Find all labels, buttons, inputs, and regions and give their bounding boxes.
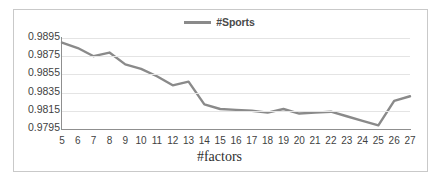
- gridline: [62, 111, 410, 112]
- x-tick-label: 11: [152, 134, 162, 147]
- y-tick-label: 0.9895: [14, 31, 60, 42]
- y-tick-label: 0.9855: [14, 67, 60, 78]
- x-axis-tick-labels: 5678910111213141516171819202122232425262…: [62, 134, 410, 148]
- gridline: [62, 93, 410, 94]
- x-tick-label: 6: [75, 134, 81, 147]
- x-tick-label: 12: [167, 134, 178, 147]
- x-tick-label: 18: [262, 134, 273, 147]
- gridline: [62, 74, 410, 75]
- legend-line-swatch-sports: [184, 21, 211, 24]
- x-tick-label: 8: [107, 134, 113, 147]
- x-tick-label: 17: [246, 134, 257, 147]
- x-tick-label: 10: [136, 134, 147, 147]
- y-tick-label: 0.9815: [14, 103, 60, 114]
- x-tick-label: 20: [294, 134, 305, 147]
- x-tick-label: 16: [230, 134, 241, 147]
- x-tick-label: 27: [404, 134, 415, 147]
- gridline: [62, 38, 410, 39]
- x-tick-label: 15: [215, 134, 226, 147]
- x-tick-label: 5: [59, 134, 65, 147]
- x-tick-label: 25: [373, 134, 384, 147]
- series-sports-line: [62, 38, 410, 129]
- x-tick-label: 14: [199, 134, 210, 147]
- x-tick-label: 7: [91, 134, 97, 147]
- x-tick-label: 9: [122, 134, 128, 147]
- x-tick-label: 23: [341, 134, 352, 147]
- y-axis-tick-labels: 0.97950.98150.98350.98550.98750.9895: [14, 36, 60, 136]
- x-axis-line: [61, 129, 411, 130]
- x-axis-title: #factors: [0, 149, 439, 165]
- x-tick-label: 22: [325, 134, 336, 147]
- gridline: [62, 56, 410, 57]
- y-tick-label: 0.9835: [14, 85, 60, 96]
- plot-area: [62, 38, 410, 129]
- y-tick-label: 0.9875: [14, 49, 60, 60]
- legend-label-sports: #Sports: [216, 16, 254, 28]
- chart-legend: #Sports: [0, 14, 439, 30]
- x-tick-label: 21: [310, 134, 321, 147]
- x-tick-label: 26: [389, 134, 400, 147]
- x-tick-label: 19: [278, 134, 289, 147]
- x-tick-label: 24: [357, 134, 368, 147]
- y-tick-label: 0.9795: [14, 122, 60, 133]
- x-tick-label: 13: [183, 134, 194, 147]
- sports-accuracy-line-chart: #Sports 0.97950.98150.98350.98550.98750.…: [0, 0, 439, 186]
